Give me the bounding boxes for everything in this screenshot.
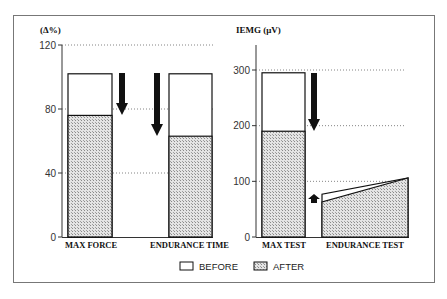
legend-swatch <box>254 262 267 270</box>
x-category-label: ENDURANCE TEST <box>326 240 404 250</box>
y-tick-label: 300 <box>233 65 250 76</box>
up-arrow-icon <box>308 194 320 203</box>
right-panel: IEMG (μV)0100200300MAX TESTENDURANCE TES… <box>233 25 409 250</box>
down-arrow-icon <box>116 73 128 115</box>
x-category-label: MAX TEST <box>262 240 306 250</box>
y-axis-label: IEMG (μV) <box>236 25 281 35</box>
y-tick-label: 100 <box>233 176 250 187</box>
y-tick-label: 120 <box>39 40 56 51</box>
legend-swatch <box>180 262 193 270</box>
bar-after <box>169 136 212 237</box>
y-tick-label: 0 <box>50 232 56 243</box>
chart-figure: (Δ%)04080120MAX FORCEENDURANCE TIME IEMG… <box>0 0 447 299</box>
down-arrow-icon <box>151 73 163 136</box>
legend-label: AFTER <box>273 261 304 272</box>
legend-label: BEFORE <box>199 261 238 272</box>
y-tick-label: 0 <box>244 232 250 243</box>
legend: BEFOREAFTER <box>180 261 304 272</box>
y-tick-label: 40 <box>45 168 57 179</box>
bar-after <box>68 115 112 237</box>
down-arrow-icon <box>308 73 320 131</box>
x-category-label: ENDURANCE TIME <box>150 240 229 250</box>
y-axis-label: (Δ%) <box>40 25 61 35</box>
y-tick-label: 200 <box>233 120 250 131</box>
y-tick-label: 80 <box>45 104 57 115</box>
bar-after <box>262 131 305 237</box>
left-panel: (Δ%)04080120MAX FORCEENDURANCE TIME <box>39 25 229 250</box>
x-category-label: MAX FORCE <box>65 240 118 250</box>
